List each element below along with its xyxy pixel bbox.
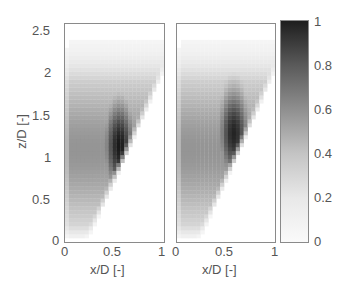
right-heatmap xyxy=(177,24,275,242)
y-axis-label: z/D [-] xyxy=(14,107,29,157)
colorbar-tick: 0.6 xyxy=(314,103,332,116)
y-tick: 2.5 xyxy=(32,24,50,37)
y-tick: 0 xyxy=(52,234,59,247)
y-tick: 0.5 xyxy=(32,193,50,206)
colorbar-tick: 0.4 xyxy=(314,147,332,160)
colorbar-tick: 0 xyxy=(314,235,321,248)
x-axis-label-right: x/D [-] xyxy=(202,262,237,277)
colorbar-tick: 0.8 xyxy=(314,59,332,72)
x-axis-label-left: x/D [-] xyxy=(90,262,125,277)
colorbar-tick: 1 xyxy=(314,15,321,28)
x-tick: 1 xyxy=(271,245,278,258)
x-tick: 0.5 xyxy=(215,245,233,258)
x-tick: 0 xyxy=(61,245,68,258)
x-tick: 0 xyxy=(172,245,179,258)
left-heatmap-axes xyxy=(64,23,165,243)
colorbar-tick: 0.2 xyxy=(314,191,332,204)
left-heatmap xyxy=(65,24,164,242)
x-tick: 0.5 xyxy=(103,245,121,258)
right-heatmap-axes xyxy=(176,23,276,243)
colorbar xyxy=(280,20,309,243)
y-tick: 2 xyxy=(44,66,51,79)
y-tick: 1.5 xyxy=(32,109,50,122)
x-tick: 1 xyxy=(158,245,165,258)
y-tick: 1 xyxy=(44,151,51,164)
